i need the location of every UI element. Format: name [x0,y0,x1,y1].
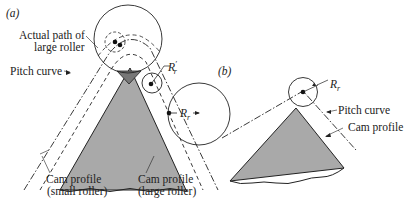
large-roller-top [94,5,162,73]
label-r-large: Rr [179,107,191,122]
label-r-b: Rr [329,78,341,93]
arrow-cam-profile-b [325,133,331,137]
large-roller [168,83,230,145]
cam-roller-diagram: (a) Actual path of large roller [0,0,411,203]
r-b-leader [303,85,318,92]
roller-center-dot-1 [113,40,118,45]
actual-path-large-roller [98,35,160,56]
label-pitch-curve-a: Pitch curve [10,65,62,77]
label-pitch-curve-b: Pitch curve [338,104,390,116]
label-cam-large-2: (large roller) [138,185,196,198]
leader-cam-small-2 [42,156,50,173]
arrow-pitch-curve-a [66,70,71,75]
leader-cam-small [40,150,49,154]
cam-body-b [230,108,344,181]
label-r-prime: R′r [167,60,178,76]
label-cam-profile-b: Cam profile [348,121,403,134]
cam-body-a [60,68,186,190]
panel-b: (b) Rr Pitch curve Cam profile [218,65,403,184]
label-actual-path-2: large roller [34,41,85,54]
r-b-leader-ext [317,80,328,85]
panel-a: (a) Actual path of large roller [6,5,230,198]
label-cam-small-2: (small roller) [47,185,108,198]
panel-a-tag: (a) [6,7,20,20]
panel-b-tag: (b) [218,65,232,78]
roller-center-dot-2 [118,43,123,48]
arrow-pitch-curve-b [326,110,331,114]
r-arrowhead [195,111,200,115]
leader-actual-path [86,36,98,48]
